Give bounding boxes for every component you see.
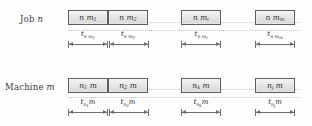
arrow-head-left-icon — [256, 42, 260, 46]
job-row-label: Job n — [20, 14, 43, 24]
dim-shaft — [68, 112, 108, 113]
machine-duration-1-arrow — [68, 109, 108, 116]
arrow-head-left-icon — [110, 110, 114, 114]
job-duration-1-label: tn m1 — [68, 31, 108, 38]
job-block-4-label: n mm — [265, 14, 284, 22]
machine-block-4-label: nj m — [267, 82, 283, 90]
job-block-1[interactable]: n m1 — [68, 10, 108, 25]
job-block-2-label: n m2 — [119, 14, 137, 22]
job-duration-3-label: tn mi — [181, 31, 221, 38]
machine-block-2-label: n2 m — [119, 82, 137, 90]
job-duration-2-arrow — [109, 41, 149, 48]
job-block-3-label: n mi — [193, 14, 209, 22]
machine-block-2[interactable]: n2 m — [108, 78, 148, 93]
machine-duration-2-arrow — [109, 109, 149, 116]
dim-shaft — [255, 112, 295, 113]
job-duration-2-label: tn m2 — [108, 31, 148, 38]
machine-row-label-prefix: Machine — [5, 82, 44, 92]
dim-cap-right — [220, 41, 221, 48]
dim-cap-right — [148, 41, 149, 48]
machine-block-3-label: nk m — [192, 82, 209, 90]
machine-duration-3-label: tnkm — [181, 99, 221, 106]
machine-row-connector-line-lower — [68, 97, 300, 98]
dim-cap-right — [294, 109, 295, 116]
job-block-2[interactable]: n m2 — [108, 10, 148, 25]
machine-duration-3-arrow — [181, 109, 221, 116]
dim-cap-right — [107, 109, 108, 116]
dim-cap-right — [107, 41, 108, 48]
machine-row-label-symbol: m — [47, 82, 55, 92]
machine-block-1-label: n1 m — [79, 82, 97, 90]
job-row-label-symbol: n — [37, 14, 43, 24]
machine-duration-4-label: tnjm — [255, 99, 295, 106]
dim-shaft — [181, 112, 221, 113]
dim-cap-right — [148, 109, 149, 116]
machine-block-1[interactable]: n1 m — [68, 78, 108, 93]
arrow-head-left-icon — [182, 110, 186, 114]
machine-duration-2-label: tn2m — [108, 99, 148, 106]
machine-row-label: Machine m — [5, 82, 55, 92]
dim-shaft — [109, 112, 149, 113]
arrow-head-left-icon — [256, 110, 260, 114]
job-block-1-label: n m1 — [79, 14, 97, 22]
arrow-head-left-icon — [69, 42, 73, 46]
arrow-head-left-icon — [182, 42, 186, 46]
machine-duration-4-arrow — [255, 109, 295, 116]
gantt-diagram: Job n n m1 n m2 n mi n mm tn m1 tn m2 — [0, 0, 312, 126]
dim-shaft — [181, 44, 221, 45]
job-row-label-prefix: Job — [20, 14, 35, 24]
job-block-3[interactable]: n mi — [181, 10, 221, 25]
machine-block-4[interactable]: nj m — [255, 78, 295, 93]
machine-block-3[interactable]: nk m — [181, 78, 221, 93]
dim-shaft — [68, 44, 108, 45]
job-duration-4-label: tn mm — [255, 31, 295, 38]
arrow-head-left-icon — [69, 110, 73, 114]
job-duration-3-arrow — [181, 41, 221, 48]
dim-shaft — [109, 44, 149, 45]
job-duration-4-arrow — [255, 41, 295, 48]
arrow-head-left-icon — [110, 42, 114, 46]
machine-duration-1-label: tn1m — [68, 99, 108, 106]
job-duration-1-arrow — [68, 41, 108, 48]
dim-cap-right — [294, 41, 295, 48]
dim-cap-right — [220, 109, 221, 116]
dim-shaft — [255, 44, 295, 45]
job-block-4[interactable]: n mm — [255, 10, 295, 25]
